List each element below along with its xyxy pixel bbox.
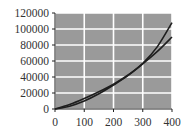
x-tick-label: 0	[52, 116, 58, 128]
y-tick-label: 20000	[20, 87, 49, 99]
line-chart: 020000400006000080000100000120000 010020…	[0, 0, 186, 136]
y-tick-label: 40000	[20, 71, 49, 83]
x-tick-label: 200	[105, 116, 123, 128]
x-tick-label: 400	[163, 116, 181, 128]
y-tick-label: 60000	[20, 55, 49, 67]
x-tick-label: 300	[134, 116, 152, 128]
y-tick-label: 0	[43, 103, 49, 115]
x-axis-ticks: 0100200300400	[52, 109, 181, 128]
y-tick-label: 80000	[20, 39, 49, 51]
y-tick-label: 100000	[15, 23, 50, 35]
y-tick-label: 120000	[15, 7, 50, 19]
x-tick-label: 100	[76, 116, 94, 128]
y-axis-ticks: 020000400006000080000100000120000	[15, 7, 56, 115]
